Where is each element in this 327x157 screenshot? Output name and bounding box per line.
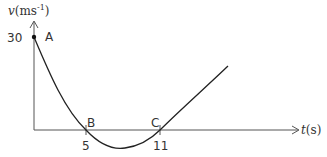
velocity-curve [34,37,228,148]
point-a-marker [32,35,36,39]
point-b-label: B [87,116,95,130]
x-axis-label: t(s) [301,123,321,137]
x-tick-label-11: 11 [153,139,168,153]
y-axis-label: v(ms-1) [8,3,49,18]
velocity-time-chart: v(ms-1) t(s) 30 5 11 A B C [0,0,327,157]
point-a-label: A [45,30,54,44]
y-tick-label-30: 30 [7,31,22,45]
point-c-label: C [151,116,159,130]
x-tick-label-5: 5 [82,139,90,153]
